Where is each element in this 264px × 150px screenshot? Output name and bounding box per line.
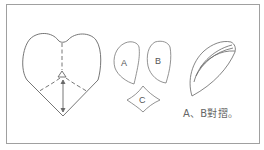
right-fold-line xyxy=(66,78,88,92)
folding-diagram: A B C xyxy=(0,0,264,150)
arrow-head-top xyxy=(61,80,65,84)
diagram-frame xyxy=(7,5,260,144)
fold-edge-1 xyxy=(194,45,232,82)
piece-c-label: C xyxy=(139,95,146,105)
triangle-marker xyxy=(58,71,66,77)
folded-piece-outline xyxy=(190,41,235,96)
folded-piece xyxy=(190,41,235,96)
arrow-head-bottom xyxy=(61,108,65,112)
piece-b-label: B xyxy=(155,56,161,66)
left-fold-line xyxy=(38,78,60,92)
fold-instruction-caption: A、B對摺。 xyxy=(183,105,238,120)
fold-edge-2 xyxy=(196,48,233,76)
piece-a-label: A xyxy=(121,58,127,68)
heart-template xyxy=(23,33,101,116)
